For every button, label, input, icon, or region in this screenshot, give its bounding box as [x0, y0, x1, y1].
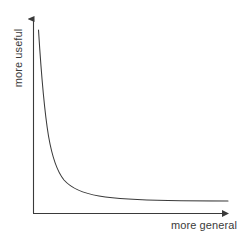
x-axis-label: more general [171, 219, 237, 231]
chart-figure: more useful more general [0, 0, 249, 239]
chart-plot-area [0, 0, 249, 239]
y-axis-label: more useful [12, 22, 24, 94]
data-curve [39, 30, 229, 201]
